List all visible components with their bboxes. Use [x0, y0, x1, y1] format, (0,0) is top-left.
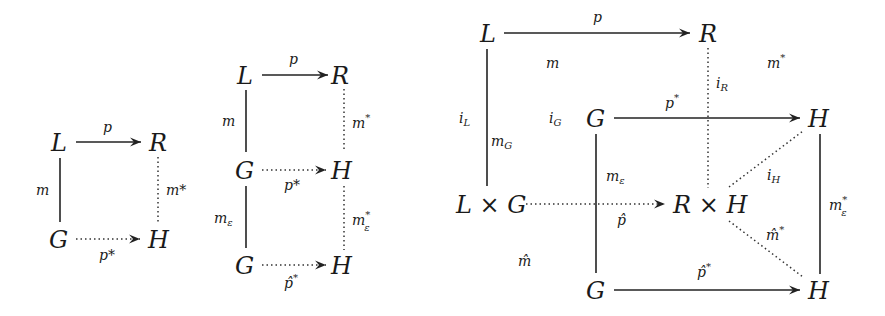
diagram-pushout-square: L R G H p m m* p*	[36, 119, 186, 263]
label-m: m	[36, 182, 49, 198]
label-m-star: m*	[166, 182, 186, 198]
label-p-hat-star: p̂*	[284, 272, 298, 291]
label-m-star: m*	[767, 52, 785, 71]
node-L: L	[236, 62, 253, 90]
node-R: R	[330, 62, 349, 90]
label-i-G: iG	[549, 110, 561, 128]
label-m-epsilon-star: m*ε	[829, 194, 847, 218]
node-R-times-H: R × H	[672, 191, 748, 219]
node-R: R	[148, 129, 167, 157]
label-m-hat: m̂	[518, 253, 531, 269]
label-p-hat-star: p̂*	[697, 261, 711, 280]
node-R: R	[698, 20, 717, 48]
node-H-top: H	[807, 105, 830, 133]
diagram-double-pushout: L R G H G H p m m* p* mε m*ε p̂*	[214, 51, 370, 291]
node-L: L	[50, 129, 67, 157]
label-m-epsilon: mε	[214, 210, 233, 228]
label-m-epsilon-star: m*ε	[352, 209, 370, 233]
node-H: H	[147, 226, 170, 254]
label-m-hat-star: m̂*	[766, 224, 784, 243]
node-G-bottom: G	[586, 277, 605, 305]
label-p-star: p*	[99, 247, 115, 263]
label-i-L: iL	[459, 110, 470, 128]
label-p-star: p*	[665, 92, 679, 111]
label-p: p	[103, 119, 112, 135]
node-L: L	[479, 20, 496, 48]
node-H-bottom: H	[330, 252, 353, 280]
label-p: p	[593, 9, 602, 25]
label-m-epsilon: mε	[606, 168, 625, 186]
node-H: H	[330, 157, 353, 185]
label-m-star: m*	[352, 112, 370, 131]
node-H-bottom: H	[807, 277, 830, 305]
commutative-diagrams: L R G H p m m* p* L R G H G H p m m* p* …	[0, 0, 885, 316]
label-m: m	[222, 113, 235, 129]
node-L-times-G: L × G	[455, 191, 526, 219]
node-G-bottom: G	[235, 252, 254, 280]
label-p-hat: p̂	[617, 212, 626, 228]
node-G: G	[49, 226, 68, 254]
arrow-i-H	[729, 131, 803, 187]
node-G-top: G	[586, 105, 605, 133]
label-m-G: mG	[491, 133, 512, 151]
node-G: G	[235, 157, 254, 185]
label-i-R: iR	[716, 75, 728, 93]
diagram-product-cube: L R G H L × G R × H G H p m m* iL mG iG …	[455, 9, 847, 305]
label-p-star: p*	[284, 177, 300, 193]
label-p: p	[289, 51, 298, 67]
label-i-H: iH	[767, 167, 780, 185]
label-m: m	[546, 55, 559, 71]
